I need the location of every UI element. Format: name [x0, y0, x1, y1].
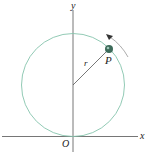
origin-label: O: [62, 138, 69, 149]
point-highlight: [107, 47, 110, 50]
radius-label: r: [84, 58, 88, 68]
circular-motion-diagram: y x O r P: [0, 0, 150, 152]
point-label: P: [104, 54, 112, 66]
diagram-canvas: y x O r P: [0, 0, 150, 152]
point-p-marker: [105, 45, 113, 53]
y-axis-label: y: [70, 0, 76, 11]
x-axis-label: x: [139, 130, 145, 141]
radius-line: [73, 50, 108, 85]
motion-arrow-icon: [106, 34, 113, 40]
motion-arc: [110, 37, 128, 57]
